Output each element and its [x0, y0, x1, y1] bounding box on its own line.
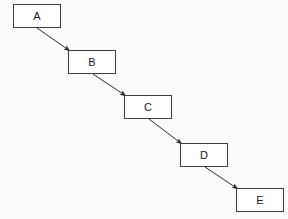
- node-label-a: A: [33, 11, 41, 22]
- node-label-d: D: [200, 150, 208, 161]
- node-label-e: E: [256, 195, 264, 206]
- node-box-a[interactable]: A: [13, 4, 61, 28]
- node-box-e[interactable]: E: [236, 188, 284, 212]
- edge-c-to-d: [149, 119, 182, 144]
- node-box-c[interactable]: C: [124, 95, 172, 119]
- node-box-b[interactable]: B: [68, 50, 116, 74]
- edge-b-to-c: [93, 74, 126, 96]
- edge-a-to-b: [37, 28, 70, 51]
- edge-d-to-e: [205, 167, 238, 189]
- node-label-b: B: [88, 57, 96, 68]
- node-box-d[interactable]: D: [180, 143, 228, 167]
- diagram-canvas: ABCDE: [0, 0, 288, 219]
- node-label-c: C: [144, 102, 152, 113]
